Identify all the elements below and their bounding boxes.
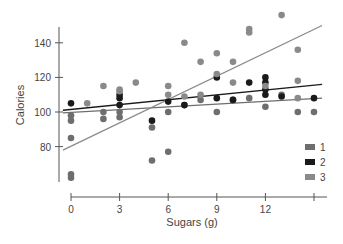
data-point	[230, 79, 237, 86]
legend-label: 1	[320, 142, 326, 153]
x-axis-label: Sugars (g)	[166, 216, 217, 228]
data-point	[278, 93, 285, 100]
data-point	[68, 112, 75, 119]
x-axis: 036912	[68, 193, 327, 215]
data-point	[197, 91, 204, 98]
y-tick-label: 140	[34, 38, 51, 49]
data-point	[149, 117, 156, 124]
legend-swatch	[305, 174, 315, 180]
data-point	[68, 100, 75, 107]
data-point	[149, 157, 156, 164]
legend-swatch	[305, 144, 315, 150]
data-point	[149, 124, 156, 131]
data-points	[68, 12, 318, 181]
data-point	[246, 95, 253, 102]
legend-label: 2	[320, 157, 326, 168]
data-point	[246, 79, 253, 86]
legend-swatch	[305, 159, 315, 165]
data-point	[165, 83, 172, 90]
data-point	[165, 148, 172, 155]
y-axis: 80100120140	[34, 27, 63, 182]
data-point	[214, 50, 221, 57]
data-point	[165, 98, 172, 105]
data-point	[116, 86, 123, 93]
data-point	[262, 74, 269, 81]
data-point	[181, 40, 188, 47]
y-tick-label: 80	[40, 142, 52, 153]
data-point	[295, 95, 302, 102]
data-point	[116, 102, 123, 109]
data-point	[68, 135, 75, 142]
data-point	[295, 78, 302, 85]
y-tick-label: 100	[34, 107, 51, 118]
data-point	[181, 102, 188, 109]
data-point	[295, 46, 302, 53]
data-point	[230, 97, 237, 104]
data-point	[165, 91, 172, 98]
x-tick-label: 6	[165, 204, 171, 215]
y-tick-label: 120	[34, 72, 51, 83]
data-point	[230, 59, 237, 66]
x-tick-label: 12	[260, 204, 272, 215]
data-point	[311, 109, 318, 116]
scatter-chart: 80100120140 036912 123 Calories Sugars (…	[0, 0, 343, 244]
legend-label: 3	[320, 172, 326, 183]
data-point	[133, 79, 140, 86]
legend: 123	[305, 142, 326, 183]
data-point	[84, 100, 91, 107]
x-tick-label: 9	[214, 204, 220, 215]
data-point	[100, 83, 107, 90]
data-point	[214, 95, 221, 102]
data-point	[262, 83, 269, 90]
y-axis-label: Calories	[14, 84, 26, 125]
data-point	[100, 109, 107, 116]
data-point	[197, 59, 204, 66]
data-point	[116, 109, 123, 116]
data-point	[246, 29, 253, 36]
x-tick-label: 0	[68, 204, 74, 215]
data-point	[68, 171, 75, 178]
data-point	[262, 104, 269, 111]
data-point	[311, 95, 318, 102]
data-point	[295, 109, 302, 116]
data-point	[100, 116, 107, 123]
data-point	[214, 71, 221, 78]
x-tick-label: 3	[117, 204, 123, 215]
data-point	[181, 93, 188, 100]
data-point	[214, 109, 221, 116]
data-point	[278, 12, 285, 19]
data-point	[165, 109, 172, 116]
